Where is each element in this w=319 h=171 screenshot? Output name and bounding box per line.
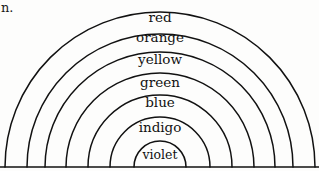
- band-label-indigo: indigo: [139, 121, 182, 135]
- rainbow-figure: n. red orange yellow green blue indigo v…: [0, 0, 319, 171]
- band-label-green: green: [140, 76, 180, 90]
- band-label-red: red: [148, 11, 171, 25]
- band-label-blue: blue: [145, 96, 175, 110]
- band-label-orange: orange: [136, 31, 184, 45]
- band-label-violet: violet: [142, 149, 177, 162]
- band-label-yellow: yellow: [138, 53, 182, 67]
